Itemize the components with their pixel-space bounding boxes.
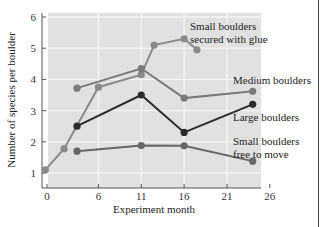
line-chart: 123456 0611162126 Number of species per … [0,0,323,227]
x-tick-label: 26 [264,190,276,202]
y-tick-label: 3 [31,105,37,117]
data-point [181,142,188,149]
x-tick-label: 11 [136,190,147,202]
y-tick-label: 1 [31,167,37,179]
data-point [138,71,145,78]
data-point [73,85,80,92]
data-point [181,129,188,136]
series-label: Large boulders [233,111,299,123]
x-tick-label: 16 [179,190,191,202]
data-point [61,145,68,152]
series-label: Small boulderssecured with glue [190,20,268,45]
data-point [138,65,145,72]
y-axis-ticks: 123456 [31,11,47,179]
x-tick-label: 6 [96,190,102,202]
x-axis-title: Experiment month [113,203,196,215]
data-point [151,41,158,48]
data-point [181,35,188,42]
data-point [138,91,145,98]
data-point [42,166,49,173]
data-point [249,88,256,95]
x-tick-label: 0 [44,190,50,202]
data-point [249,101,256,108]
page-divider [318,0,319,227]
series-label: Small bouldersfree to move [233,135,299,160]
data-point [181,95,188,102]
data-point [138,142,145,149]
y-tick-label: 4 [31,73,37,85]
x-tick-label: 21 [221,190,232,202]
data-point [73,123,80,130]
data-point [193,46,200,53]
y-tick-label: 6 [31,11,37,23]
data-point [73,148,80,155]
series-label: Medium boulders [233,74,311,86]
data-point [95,84,102,91]
y-axis-title: Number of species per boulder [5,32,17,168]
y-tick-label: 2 [31,136,37,148]
y-tick-label: 5 [31,42,37,54]
